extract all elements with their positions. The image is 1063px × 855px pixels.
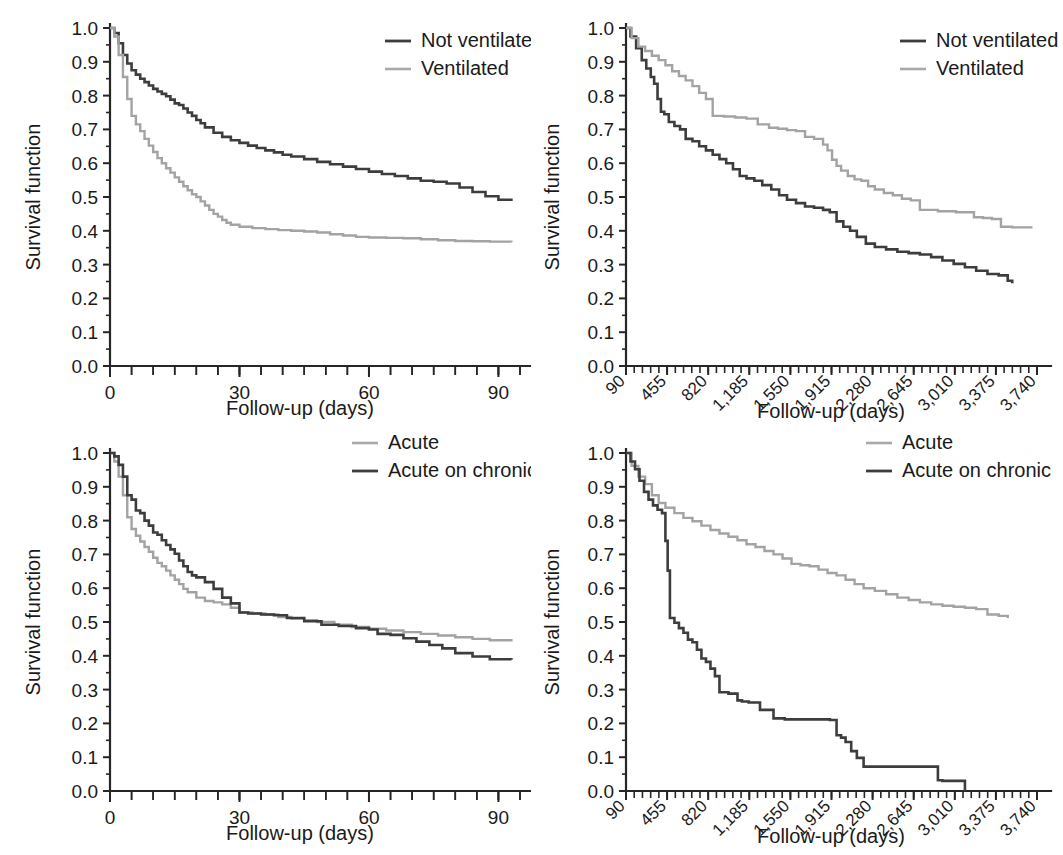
survival-curve [110,453,511,660]
y-tick-label: 0.2 [588,713,614,734]
panel-bottom-right: 0.00.10.20.30.40.50.60.70.80.91.09045582… [531,425,1062,852]
x-tick-label: 3,375 [955,371,999,415]
legend-label: Acute [902,431,953,453]
x-tick-label: 90 [488,807,509,828]
x-tick-label: 1,185 [709,796,753,840]
y-tick-label: 0.4 [588,221,615,242]
y-tick-label: 0.5 [588,187,614,208]
x-tick-label: 1,185 [709,371,753,415]
y-tick-label: 0.0 [72,781,98,802]
x-axis-title: Follow-up (days) [757,825,905,847]
legend: AcuteAcute on chronic [352,431,531,481]
y-axis-title: Survival function [22,549,44,696]
panel-d-svg: 0.00.10.20.30.40.50.60.70.80.91.09045582… [531,425,1063,852]
y-tick-label: 0.7 [72,119,98,140]
y-tick-label: 0.7 [588,544,614,565]
y-tick-label: 0.5 [72,612,98,633]
x-tick-label: 3,010 [914,796,958,840]
y-axis-ticks: 0.00.10.20.30.40.50.60.70.80.91.0 [588,443,626,802]
y-tick-label: 1.0 [72,443,98,464]
y-tick-label: 0.4 [588,646,615,667]
y-tick-label: 0.3 [588,255,614,276]
y-tick-label: 0.0 [72,356,98,377]
y-tick-label: 0.2 [588,288,614,309]
y-tick-label: 0.6 [72,578,98,599]
y-tick-label: 0.1 [588,747,614,768]
y-tick-label: 0.4 [72,646,99,667]
survival-curve [626,453,965,791]
y-tick-label: 0.5 [72,187,98,208]
y-tick-label: 1.0 [72,18,98,39]
legend-label: Not ventilated [936,29,1058,51]
y-axis-ticks: 0.00.10.20.30.40.50.60.70.80.91.0 [72,443,110,802]
y-tick-label: 0.7 [72,544,98,565]
x-axis-title: Follow-up (days) [226,397,374,419]
legend: Not ventilatedVentilated [900,29,1058,79]
y-axis-title: Survival function [22,124,44,271]
legend-label: Ventilated [421,57,509,79]
axes [110,449,531,791]
legend-label: Acute on chronic [902,459,1051,481]
x-tick-label: 0 [105,382,116,403]
x-tick-label: 90 [488,382,509,403]
panel-a-svg: 0.00.10.20.30.40.50.60.70.80.91.00306090… [0,0,531,427]
axes [626,449,1051,791]
y-tick-label: 0.9 [588,52,614,73]
y-tick-label: 0.4 [72,221,99,242]
y-tick-label: 0.1 [72,322,98,343]
legend-label: Acute on chronic [388,459,531,481]
legend: AcuteAcute on chronic [866,431,1051,481]
survival-figure: 0.00.10.20.30.40.50.60.70.80.91.00306090… [0,0,1063,855]
y-tick-label: 0.1 [72,747,98,768]
y-tick-label: 0.5 [588,612,614,633]
y-axis-ticks: 0.00.10.20.30.40.50.60.70.80.91.0 [588,18,626,377]
x-tick-label: 3,740 [996,796,1040,840]
y-tick-label: 0.8 [72,511,98,532]
y-axis-title: Survival function [541,124,563,271]
panel-bottom-left: 0.00.10.20.30.40.50.60.70.80.91.00306090… [0,425,531,852]
survival-curve [110,28,511,201]
y-tick-label: 0.9 [588,477,614,498]
x-tick-label: 3,740 [996,371,1040,415]
legend-label: Acute [388,431,439,453]
y-tick-label: 0.0 [588,781,614,802]
y-tick-label: 0.3 [72,680,98,701]
x-tick-label: 820 [678,371,711,404]
x-tick-label: 0 [105,807,116,828]
panel-b-svg: 0.00.10.20.30.40.50.60.70.80.91.09045582… [531,0,1063,427]
y-tick-label: 1.0 [588,18,614,39]
y-tick-label: 1.0 [588,443,614,464]
curves [626,453,1008,791]
x-axis-title: Follow-up (days) [757,400,905,422]
y-tick-label: 0.3 [72,255,98,276]
x-tick-label: 455 [636,796,669,829]
y-tick-label: 0.9 [72,52,98,73]
y-tick-label: 0.6 [588,153,614,174]
panel-c-svg: 0.00.10.20.30.40.50.60.70.80.91.00306090… [0,425,531,852]
x-axis-title: Follow-up (days) [226,822,374,844]
y-tick-label: 0.8 [72,86,98,107]
x-tick-label: 455 [636,371,669,404]
x-tick-label: 820 [678,796,711,829]
y-axis-title: Survival function [541,549,563,696]
y-axis-ticks: 0.00.10.20.30.40.50.60.70.80.91.0 [72,18,110,377]
y-tick-label: 0.8 [588,511,614,532]
y-tick-label: 0.1 [588,322,614,343]
y-tick-label: 0.7 [588,119,614,140]
y-tick-label: 0.8 [588,86,614,107]
y-tick-label: 0.2 [72,288,98,309]
y-tick-label: 0.9 [72,477,98,498]
y-tick-label: 0.6 [72,153,98,174]
y-tick-label: 0.0 [588,356,614,377]
panel-top-right: 0.00.10.20.30.40.50.60.70.80.91.09045582… [531,0,1062,427]
legend-label: Ventilated [936,57,1024,79]
legend: Not ventilatedVentilated [385,29,531,79]
panel-top-left: 0.00.10.20.30.40.50.60.70.80.91.00306090… [0,0,531,427]
legend-label: Not ventilated [421,29,531,51]
y-tick-label: 0.6 [588,578,614,599]
y-tick-label: 0.3 [588,680,614,701]
x-tick-label: 3,375 [955,796,999,840]
curves [110,453,511,660]
x-tick-label: 3,010 [914,371,958,415]
y-tick-label: 0.2 [72,713,98,734]
